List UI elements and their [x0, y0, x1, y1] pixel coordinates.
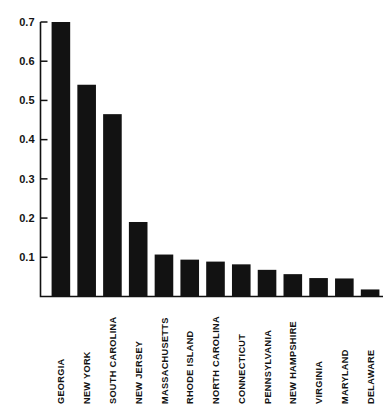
bar — [361, 289, 380, 296]
bar — [77, 85, 96, 297]
x-category-label: DELAWARE — [366, 350, 376, 404]
bar — [232, 264, 251, 296]
x-category-label: MARYLAND — [340, 349, 350, 404]
x-category-label: NEW JERSEY — [134, 341, 144, 404]
y-tick-label: 0.7 — [19, 16, 34, 28]
bar — [52, 22, 71, 297]
bar — [258, 270, 277, 297]
chart-canvas: 0.10.20.30.40.50.60.7 GEORGIANEW YORKSOU… — [0, 0, 391, 413]
x-category-label: CONNECTICUT — [237, 334, 247, 404]
bar — [309, 278, 328, 296]
bar — [103, 114, 122, 296]
y-tick-label: 0.1 — [19, 251, 34, 263]
x-category-label: PENNSYLVANIA — [263, 330, 273, 404]
y-tick-label: 0.4 — [19, 133, 35, 145]
x-category-label: NEW YORK — [82, 351, 92, 404]
bar — [206, 262, 225, 297]
y-tick-label: 0.3 — [19, 173, 34, 185]
y-tick-label: 0.5 — [19, 94, 34, 106]
bar — [284, 274, 303, 296]
x-category-label: SOUTH CAROLINA — [108, 317, 118, 404]
bar — [129, 222, 148, 297]
y-tick-label: 0.6 — [19, 55, 34, 67]
bar — [155, 255, 174, 297]
x-category-label: VIRGINIA — [314, 361, 324, 404]
x-category-label: NORTH CAROLINA — [211, 316, 221, 404]
x-category-label: NEW HAMPSHIRE — [288, 321, 298, 404]
x-category-label: GEORGIA — [56, 358, 66, 404]
x-category-label: MASSACHUSETTS — [160, 317, 170, 404]
x-category-label: RHODE ISLAND — [185, 330, 195, 404]
bar — [335, 278, 354, 296]
bar — [180, 260, 199, 297]
bar-chart: 0.10.20.30.40.50.60.7 GEORGIANEW YORKSOU… — [0, 0, 391, 413]
y-tick-label: 0.2 — [19, 212, 34, 224]
